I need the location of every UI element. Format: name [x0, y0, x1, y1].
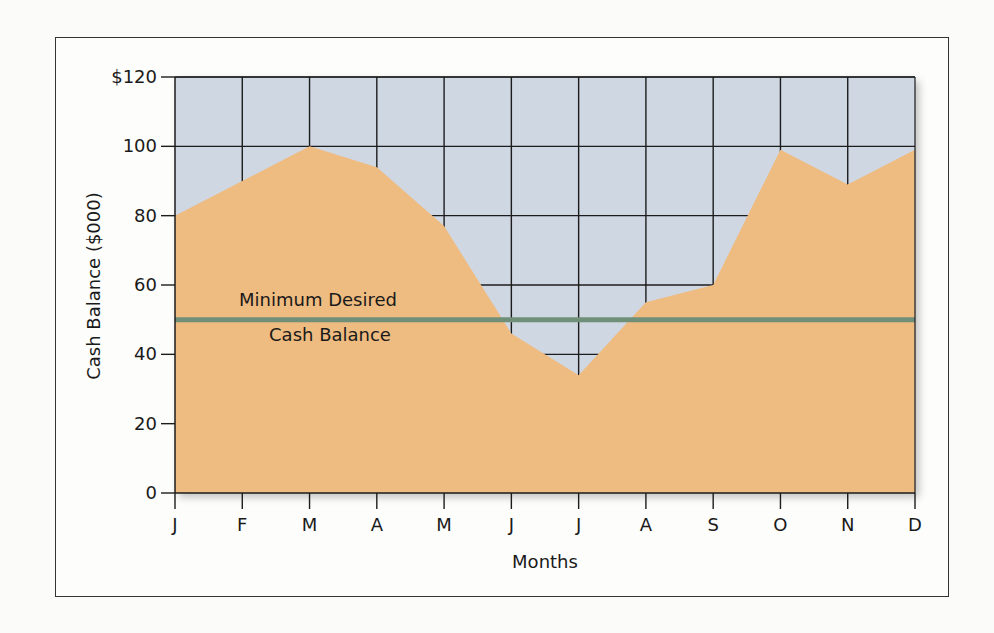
- y-tick-label: 20: [134, 413, 157, 434]
- x-tick-label: M: [436, 514, 452, 535]
- y-axis-ticks: 020406080100$120: [111, 66, 175, 503]
- x-tick-label: A: [640, 514, 653, 535]
- x-tick-label: J: [171, 514, 177, 535]
- annotation-line-2: Cash Balance: [269, 324, 391, 345]
- y-axis-title: Cash Balance ($000): [83, 192, 104, 379]
- x-tick-label: J: [575, 514, 581, 535]
- x-tick-label: J: [508, 514, 514, 535]
- y-tick-label: 40: [134, 343, 157, 364]
- x-tick-label: A: [371, 514, 384, 535]
- x-tick-label: N: [841, 514, 854, 535]
- x-axis-ticks: JFMAMJJASOND: [171, 493, 922, 535]
- x-tick-label: S: [707, 514, 718, 535]
- y-tick-label: 0: [146, 482, 157, 503]
- y-tick-label: $120: [111, 66, 157, 87]
- y-tick-label: 60: [134, 274, 157, 295]
- annotation-line-1: Minimum Desired: [239, 289, 397, 310]
- x-axis-title: Months: [512, 551, 578, 572]
- x-tick-label: F: [237, 514, 247, 535]
- x-tick-label: D: [908, 514, 922, 535]
- x-tick-label: M: [302, 514, 318, 535]
- y-tick-label: 100: [123, 135, 157, 156]
- y-tick-label: 80: [134, 205, 157, 226]
- cash-balance-chart: 020406080100$120 JFMAMJJASOND Minimum De…: [0, 0, 994, 633]
- x-tick-label: O: [773, 514, 787, 535]
